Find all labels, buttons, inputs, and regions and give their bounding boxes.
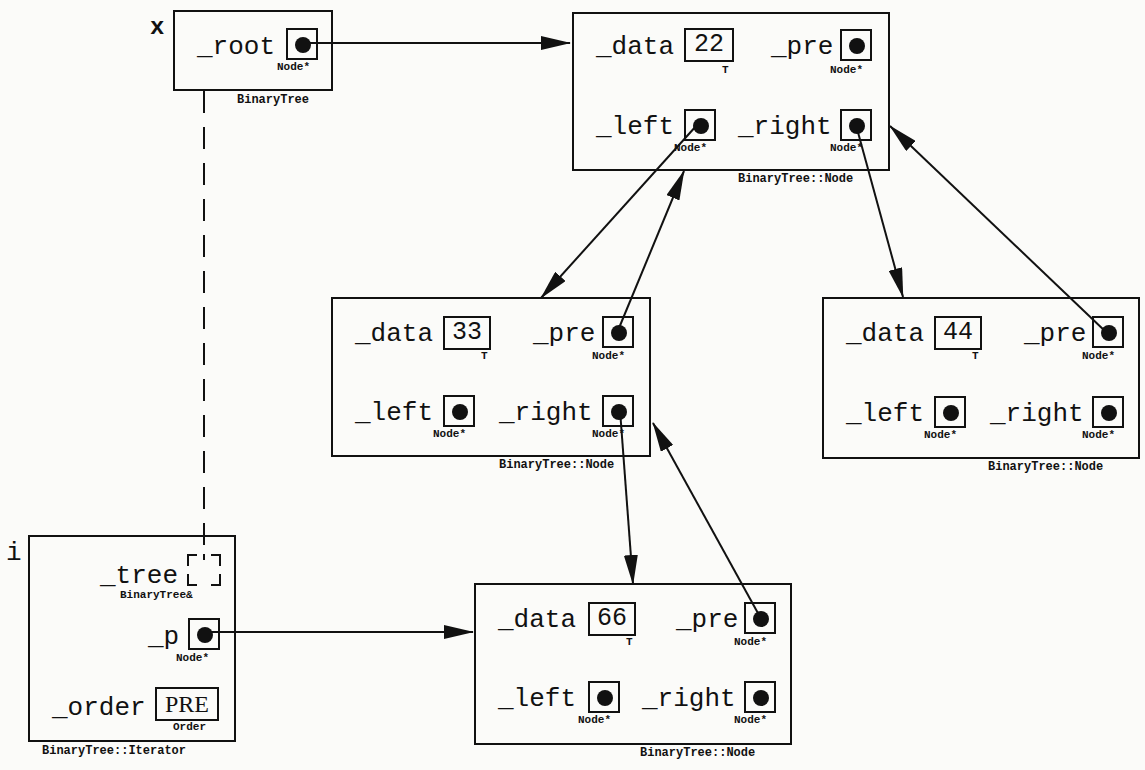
- tree-type: BinaryTree&: [120, 589, 193, 601]
- left-type: Node*: [674, 142, 707, 154]
- pre-type: Node*: [1082, 350, 1115, 362]
- iterator-i-box[interactable]: _tree BinaryTree& _p Node* _order PRE Or…: [28, 535, 236, 742]
- right-field-label: _right: [990, 401, 1084, 427]
- data-type: T: [722, 64, 729, 76]
- left-type: Node*: [578, 714, 611, 726]
- node-44-type: BinaryTree::Node: [988, 460, 1103, 474]
- data-value: 44: [934, 316, 982, 350]
- data-field-label: _data: [846, 321, 924, 347]
- data-type: T: [972, 350, 979, 362]
- pointer-dot-icon: [1101, 325, 1117, 341]
- pointer-dot-icon: [693, 118, 709, 134]
- right-type: Node*: [1082, 429, 1115, 441]
- right-field-label: _right: [499, 400, 593, 426]
- right-type: Node*: [734, 714, 767, 726]
- node-66-type: BinaryTree::Node: [640, 746, 755, 760]
- pointer-dot-icon: [753, 611, 769, 627]
- dashed-reference-icon: [187, 554, 221, 586]
- pointer-dot-icon: [611, 325, 627, 341]
- pre-type: Node*: [830, 64, 863, 76]
- p-type: Node*: [176, 652, 209, 664]
- data-value: 22: [684, 28, 734, 62]
- pointer-dot-icon: [452, 404, 468, 420]
- variable-name-x: x: [150, 14, 164, 41]
- pointer-dot-icon: [849, 118, 865, 134]
- pointer-dot-icon: [849, 38, 865, 54]
- pre-pointer[interactable]: [602, 316, 634, 348]
- pointer-dot-icon: [197, 627, 213, 643]
- order-value: PRE: [155, 687, 219, 721]
- data-value: 66: [588, 602, 636, 636]
- pointer-dot-icon: [611, 404, 627, 420]
- pre-pointer[interactable]: [1092, 316, 1124, 348]
- pre-pointer[interactable]: [840, 29, 872, 61]
- node-33-box[interactable]: _data 33 T _pre Node* _left Node* _right…: [331, 297, 651, 457]
- pre-field-label: _pre: [533, 321, 595, 347]
- binarytree-x-type: BinaryTree: [237, 93, 309, 107]
- data-type: T: [626, 636, 633, 648]
- left-field-label: _left: [355, 400, 433, 426]
- right-field-label: _right: [642, 686, 736, 712]
- data-field-label: _data: [596, 34, 674, 60]
- node-22-type: BinaryTree::Node: [738, 172, 853, 186]
- right-pointer[interactable]: [744, 681, 776, 713]
- pre-field-label: _pre: [771, 34, 833, 60]
- left-field-label: _left: [846, 401, 924, 427]
- tree-reference-slot[interactable]: [187, 554, 221, 586]
- left-type: Node*: [433, 428, 466, 440]
- order-field-label: _order: [52, 695, 146, 721]
- left-pointer[interactable]: [684, 109, 716, 141]
- left-type: Node*: [924, 429, 957, 441]
- order-type: Order: [173, 721, 206, 733]
- variable-name-i: i: [6, 538, 22, 568]
- right-pointer[interactable]: [840, 109, 872, 141]
- pointer-dot-icon: [295, 37, 311, 53]
- pointer-dot-icon: [597, 690, 613, 706]
- pointer-dot-icon: [1101, 405, 1117, 421]
- root-field-label: _root: [197, 34, 275, 60]
- pre-field-label: _pre: [1024, 321, 1086, 347]
- pre-field-label: _pre: [676, 607, 738, 633]
- p-pointer[interactable]: [188, 618, 220, 650]
- iterator-i-type: BinaryTree::Iterator: [42, 744, 186, 758]
- left-pointer[interactable]: [588, 681, 620, 713]
- tree-field-label: _tree: [100, 563, 178, 589]
- node-66-box[interactable]: _data 66 T _pre Node* _left Node* _right…: [474, 583, 792, 745]
- pre-pointer[interactable]: [744, 602, 776, 634]
- node-33-type: BinaryTree::Node: [499, 458, 614, 472]
- right-pointer[interactable]: [602, 395, 634, 427]
- left-pointer[interactable]: [934, 396, 966, 428]
- right-field-label: _right: [738, 114, 832, 140]
- right-pointer[interactable]: [1092, 396, 1124, 428]
- data-field-label: _data: [498, 607, 576, 633]
- node-22-box[interactable]: _data 22 T _pre Node* _left Node* _right…: [572, 12, 890, 171]
- pointer-dot-icon: [943, 405, 959, 421]
- right-type: Node*: [592, 428, 625, 440]
- data-type: T: [481, 350, 488, 362]
- binarytree-x-box[interactable]: _root Node*: [173, 10, 333, 91]
- node-44-box[interactable]: _data 44 T _pre Node* _left Node* _right…: [822, 297, 1140, 459]
- pointer-dot-icon: [753, 690, 769, 706]
- root-pointer[interactable]: [286, 28, 318, 60]
- pre-type: Node*: [592, 350, 625, 362]
- left-field-label: _left: [596, 114, 674, 140]
- left-field-label: _left: [498, 686, 576, 712]
- left-pointer[interactable]: [443, 395, 475, 427]
- data-field-label: _data: [355, 321, 433, 347]
- right-type: Node*: [830, 142, 863, 154]
- p-field-label: _p: [148, 624, 179, 650]
- pre-type: Node*: [734, 636, 767, 648]
- data-value: 33: [443, 316, 491, 350]
- root-type: Node*: [277, 61, 310, 73]
